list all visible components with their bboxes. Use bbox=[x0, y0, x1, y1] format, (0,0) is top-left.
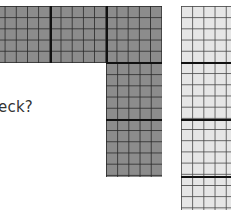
block-divider bbox=[106, 119, 162, 121]
block-divider bbox=[181, 62, 231, 64]
block-divider bbox=[106, 6, 108, 63]
block-divider bbox=[106, 62, 162, 64]
block-divider bbox=[181, 119, 231, 121]
block-divider bbox=[50, 6, 52, 63]
unshaded-grid-strip bbox=[181, 6, 231, 210]
question-text: eck? bbox=[0, 98, 33, 116]
shaded-grid-top-strip bbox=[0, 6, 162, 63]
block-divider bbox=[181, 176, 231, 178]
